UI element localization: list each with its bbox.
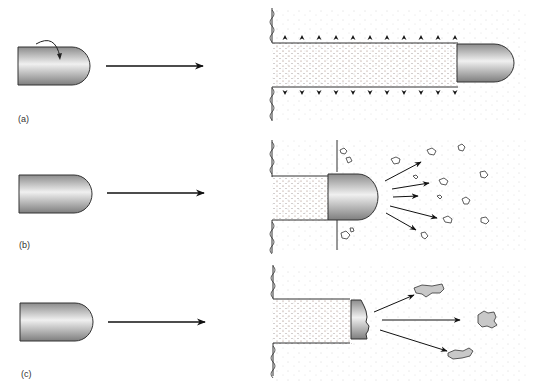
panel-a xyxy=(18,8,528,121)
panel-c xyxy=(20,265,528,383)
bullet-c xyxy=(20,303,93,341)
panel-label-b: (b) xyxy=(19,240,30,250)
panel-label-c: (c) xyxy=(21,369,32,379)
panel-b xyxy=(19,140,528,254)
panel-label-a: (a) xyxy=(18,114,29,124)
terminal-ballistics-diagram xyxy=(0,0,538,391)
bullet-b-target xyxy=(328,174,378,220)
bullet-a-target xyxy=(457,44,514,82)
bullet-a xyxy=(18,47,90,85)
bullet-b xyxy=(19,175,92,213)
